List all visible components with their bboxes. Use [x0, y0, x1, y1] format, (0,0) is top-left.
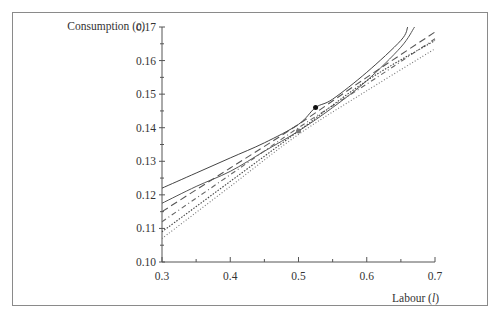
axes: 0.30.40.50.60.70.100.110.120.130.140.150…: [136, 21, 443, 282]
fine-dotted-curve: [162, 49, 435, 239]
y-tick-label: 0.17: [136, 21, 156, 33]
y-tick-label: 0.13: [136, 155, 156, 167]
solid-curve-1: [162, 27, 408, 188]
y-tick-label: 0.10: [136, 256, 156, 268]
dashed-curve: [162, 32, 435, 212]
dotted-curve: [162, 40, 435, 231]
y-tick-label: 0.11: [136, 222, 156, 234]
y-tick-label: 0.12: [136, 189, 156, 201]
x-tick-label: 0.7: [428, 270, 443, 282]
y-tick-label: 0.14: [136, 122, 156, 134]
x-tick-label: 0.3: [155, 270, 170, 282]
x-tick-label: 0.4: [223, 270, 238, 282]
x-tick-label: 0.6: [360, 270, 375, 282]
plot-area: 0.30.40.50.60.70.100.110.120.130.140.150…: [0, 0, 500, 319]
y-tick-label: 0.16: [136, 55, 156, 67]
black-point: [313, 105, 318, 110]
x-tick-label: 0.5: [291, 270, 306, 282]
grey-point: [296, 129, 301, 134]
solid-curve-2: [162, 27, 415, 203]
y-tick-label: 0.15: [136, 88, 156, 100]
